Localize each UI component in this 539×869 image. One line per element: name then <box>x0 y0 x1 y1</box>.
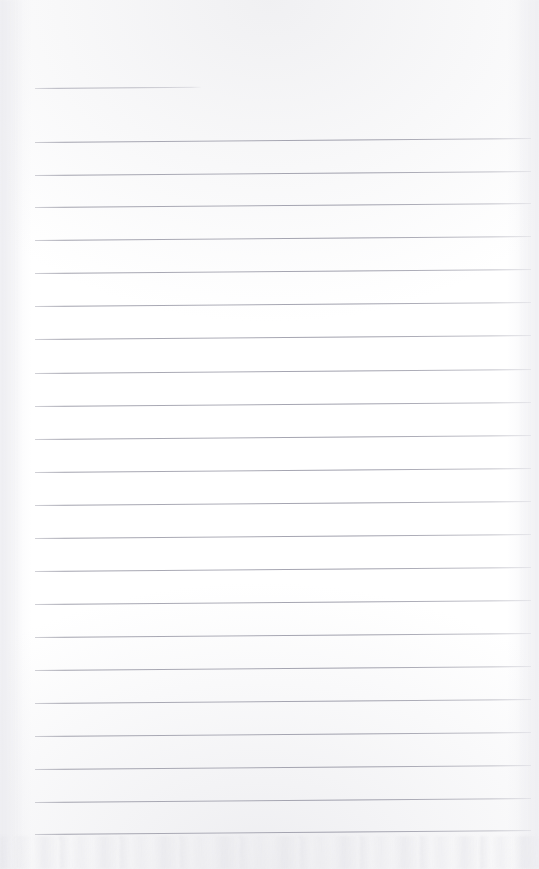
ruled-line-3 <box>35 203 531 208</box>
ruled-line-17 <box>35 666 531 671</box>
scan-artifact-bottom-band <box>0 836 539 869</box>
ruled-line-6 <box>35 302 531 307</box>
ruled-line-16 <box>35 633 531 638</box>
ruled-line-21 <box>35 798 531 803</box>
ruled-line-18 <box>35 699 531 704</box>
ruled-line-14 <box>35 567 531 572</box>
ruled-line-5 <box>35 269 531 274</box>
ruled-line-12 <box>35 501 531 506</box>
ruled-line-13 <box>35 534 531 539</box>
ruled-line-1 <box>35 138 531 143</box>
ruled-line-20 <box>35 765 531 770</box>
ruled-line-15 <box>35 600 531 605</box>
ruled-line-22 <box>35 830 531 835</box>
ruled-line-8 <box>35 369 531 374</box>
ruled-line-7 <box>35 335 531 340</box>
ruled-line-19 <box>35 732 531 737</box>
ruled-lines-layer <box>0 0 539 869</box>
header-rule-line <box>35 87 201 89</box>
ruled-line-10 <box>35 435 531 440</box>
ruled-line-9 <box>35 402 531 407</box>
ruled-line-4 <box>35 236 531 241</box>
ruled-line-11 <box>35 468 531 473</box>
ruled-line-2 <box>35 171 531 176</box>
scanned-page <box>0 0 539 869</box>
